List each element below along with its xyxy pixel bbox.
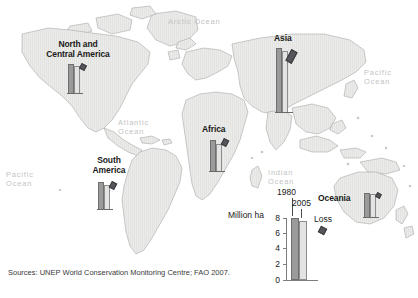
region-label-line1: North and	[58, 39, 97, 49]
legend-bar-2005	[299, 221, 307, 280]
legend-ticklabel-0: 0	[266, 275, 280, 285]
bargroup-asia	[272, 45, 302, 113]
source-note: Sources: UNEP World Conservation Monitor…	[8, 268, 230, 277]
legend-axis-title: Million ha	[228, 210, 264, 220]
region-label-africa: Africa	[202, 125, 226, 135]
baseline-asia	[275, 112, 293, 113]
legend-tick-6	[283, 233, 287, 234]
baseline-oceania	[363, 217, 379, 218]
region-north-and-central-america[interactable]: North and Central America	[30, 40, 126, 100]
forest-area-map-figure: Arctic Ocean Atlantic Ocean Pacific Ocea…	[0, 0, 418, 298]
legend-ticklabel-4: 4	[266, 243, 280, 253]
legend-ticklabel-6: 6	[266, 228, 280, 238]
bar-2005-africa	[216, 144, 222, 172]
region-africa[interactable]: Africa	[200, 125, 260, 175]
ocean-label-pacific-east: Pacific Ocean	[364, 68, 392, 86]
legend-ticklabel-2: 2	[266, 259, 280, 269]
region-label-line2: Central America	[46, 49, 109, 59]
region-label-line1: South	[97, 155, 121, 165]
loss-marker-north-and-central-america	[79, 63, 87, 71]
bar-2005-south-america	[104, 185, 110, 210]
ocean-label-pacific-west: Pacific Ocean	[6, 170, 34, 188]
legend-swatch-loss	[318, 226, 327, 235]
legend-sample-bars	[289, 218, 319, 280]
ocean-label-atlantic: Atlantic Ocean	[118, 118, 149, 136]
region-label-south-america: South America	[78, 156, 140, 175]
chart-legend[interactable]: Million ha 8 6 4 2 0 1980 2005 Loss	[236, 196, 326, 286]
baseline-africa	[209, 171, 225, 172]
legend-axis-line	[286, 218, 287, 280]
bargroup-north-and-central-america	[66, 62, 92, 94]
legend-leader-2005	[301, 209, 302, 218]
ocean-label-indian: Indian Ocean	[268, 168, 294, 186]
loss-marker-oceania	[375, 192, 382, 199]
region-label-asia: Asia	[274, 34, 292, 44]
legend-label-loss: Loss	[314, 214, 332, 224]
region-south-america[interactable]: South America	[78, 156, 150, 212]
legend-baseline	[286, 280, 318, 281]
bar-2005-north-and-central-america	[74, 66, 80, 94]
ocean-label-arctic: Arctic Ocean	[168, 17, 221, 26]
legend-ticklabel-8: 8	[266, 213, 280, 223]
baseline-north-and-central-america	[67, 93, 83, 94]
region-label-line2: America	[93, 165, 126, 175]
region-asia[interactable]: Asia	[264, 34, 320, 120]
bargroup-oceania	[362, 188, 388, 218]
bargroup-africa	[208, 136, 234, 172]
bargroup-south-america	[96, 178, 122, 210]
legend-tick-4	[283, 248, 287, 249]
legend-bar-1980	[291, 218, 299, 280]
legend-tick-2	[283, 264, 287, 265]
bar-2005-oceania	[370, 194, 376, 218]
legend-label-1980: 1980	[277, 187, 296, 197]
legend-label-2005: 2005	[292, 198, 311, 208]
legend-tick-8	[283, 218, 287, 219]
region-label-north-and-central-america: North and Central America	[30, 40, 126, 59]
baseline-south-america	[97, 209, 113, 210]
